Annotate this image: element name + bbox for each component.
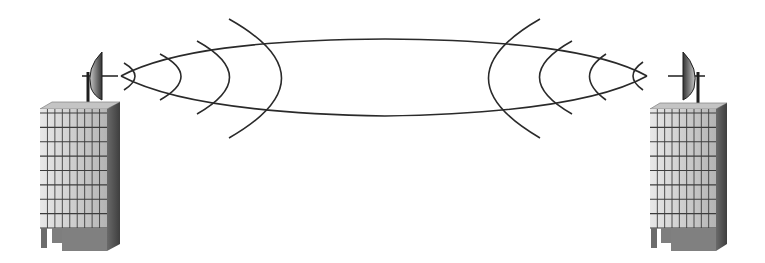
building-base (671, 228, 716, 251)
building-side (107, 102, 120, 251)
wavefront-arc (160, 54, 181, 100)
microwave-link-diagram (0, 0, 765, 263)
beam-lower-edge (121, 76, 647, 116)
wavefront-arc (489, 19, 541, 138)
wavefront-arc (124, 63, 135, 90)
building-entrance (661, 228, 671, 243)
right-wavefronts (489, 19, 644, 138)
microwave-beam (121, 39, 647, 116)
building-pillar (651, 228, 657, 248)
diagram-canvas: point-to-point microwave link (0, 0, 765, 263)
building-entrance (52, 228, 62, 243)
left-wavefronts (124, 19, 282, 138)
building-base (62, 228, 107, 251)
building-roof (650, 103, 727, 109)
building-roof (40, 102, 120, 109)
parabolic-dish-icon (683, 52, 695, 100)
building-side (716, 103, 727, 251)
left-site (40, 52, 120, 251)
left-building (40, 102, 120, 251)
building-pillar (41, 228, 47, 248)
wavefront-arc (229, 19, 282, 138)
beam-upper-edge (121, 39, 647, 76)
right-building (650, 103, 727, 251)
wavefront-arc (633, 62, 643, 90)
parabolic-dish-icon (90, 52, 102, 100)
right-site (650, 52, 727, 251)
